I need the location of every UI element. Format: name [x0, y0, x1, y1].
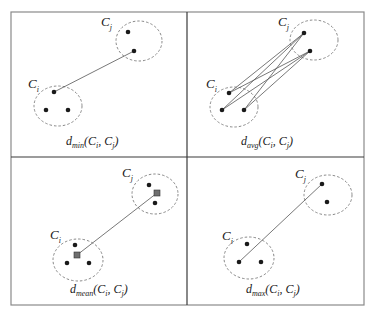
point	[153, 201, 158, 206]
mean-link	[77, 193, 157, 255]
point	[308, 49, 313, 54]
cluster-i-outline	[210, 87, 258, 127]
caption-avg: davg(Ci, Cj)	[241, 134, 293, 150]
point	[242, 108, 247, 113]
point	[65, 261, 70, 266]
min-link	[54, 51, 134, 92]
point	[147, 183, 152, 188]
avg-links	[222, 33, 310, 110]
point	[302, 31, 307, 36]
cluster-j-label: Cj	[295, 166, 307, 184]
cluster-j-label: Cj	[122, 165, 134, 183]
point	[245, 242, 250, 247]
cluster-j-label: Cj	[278, 14, 290, 32]
point	[220, 108, 225, 113]
point	[66, 108, 71, 113]
caption-max: dmax(Ci, Cj)	[246, 282, 300, 298]
cluster-i-label: Ci	[50, 227, 61, 245]
cluster-j-label: Cj	[101, 14, 113, 32]
panel-mean: Cj Ci dmean(Ci, Cj)	[50, 165, 178, 298]
caption-min: dmin(Ci, Cj)	[66, 134, 118, 150]
linkage-diagram: Cj Ci dmin(Ci, Cj) Cj Ci davg(Ci, Cj)	[0, 0, 374, 318]
centroid-i-marker	[74, 252, 80, 258]
max-link	[239, 184, 322, 262]
point	[87, 261, 92, 266]
cluster-i-label: Ci	[206, 76, 217, 94]
point	[126, 30, 131, 35]
caption-mean: dmean(Ci, Cj)	[70, 282, 128, 298]
point	[320, 182, 325, 187]
cluster-i-outline	[34, 86, 82, 126]
panel-min: Cj Ci dmin(Ci, Cj)	[28, 14, 162, 150]
point	[44, 108, 49, 113]
cluster-j-outline	[290, 20, 338, 60]
cluster-j-outline	[116, 21, 162, 61]
point	[52, 90, 57, 95]
panel-avg: Cj Ci davg(Ci, Cj)	[206, 14, 338, 150]
point	[325, 200, 330, 205]
cluster-i-label: Ci	[28, 76, 39, 94]
point	[73, 243, 78, 248]
point	[132, 49, 137, 54]
cluster-i-outline	[53, 239, 103, 281]
point	[237, 260, 242, 265]
cluster-i-label: Ci	[222, 228, 233, 246]
point	[259, 260, 264, 265]
centroid-j-marker	[154, 190, 160, 196]
panel-max: Cj Ci dmax(Ci, Cj)	[222, 166, 352, 298]
cluster-j-outline	[304, 175, 352, 215]
point	[227, 91, 232, 96]
